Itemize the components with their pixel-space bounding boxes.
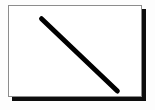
drawing-canvas[interactable]	[8, 5, 142, 97]
diagonal-line-svg	[9, 6, 141, 96]
diagonal-line-stroke[interactable]	[42, 19, 118, 91]
figure-root	[0, 0, 155, 110]
